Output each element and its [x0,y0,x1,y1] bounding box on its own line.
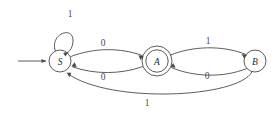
transition-S-to-S: 1 [54,9,73,56]
state-label-A: A [153,57,160,67]
figure-canvas: 1 0 0 1 0 1 [0,0,278,114]
transition-label-A-B: 1 [206,36,211,46]
transition-B-to-A: 0 [170,63,247,81]
transition-label-S-S: 1 [68,9,73,19]
transition-label-B-A: 0 [205,71,210,81]
state-label-B: B [252,57,258,67]
start-arrow [18,59,46,63]
transition-S-to-A: 0 [71,38,144,60]
transition-B-to-S: 1 [67,72,252,108]
transition-label-S-A: 0 [101,38,106,48]
state-machine-diagram: 1 0 0 1 0 1 [0,0,278,114]
transition-label-B-S: 1 [145,98,150,108]
state-label-S: S [58,57,63,67]
state-node-S[interactable]: S [49,50,71,72]
transition-A-to-S: 0 [71,62,142,82]
state-node-A[interactable]: A [142,46,172,76]
transition-A-to-B: 1 [170,36,247,59]
transition-label-A-S: 0 [101,72,106,82]
state-node-B[interactable]: B [244,50,266,72]
